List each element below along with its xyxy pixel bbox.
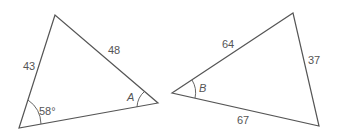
triangle-left: 43 48 58° A — [19, 15, 158, 128]
angle-A-arc — [137, 91, 145, 107]
side-48-label: 48 — [108, 44, 120, 56]
triangle-right: 64 37 67 B — [172, 13, 320, 126]
side-64-label: 64 — [222, 38, 234, 50]
side-67-label: 67 — [237, 114, 249, 126]
angle-B-label: B — [199, 82, 206, 94]
angle-58-label: 58° — [39, 105, 56, 117]
triangle-right-outline — [172, 13, 319, 126]
angle-A-label: A — [126, 91, 134, 103]
side-43-label: 43 — [23, 60, 35, 72]
angle-B-arc — [192, 80, 196, 98]
side-37-label: 37 — [308, 54, 320, 66]
diagram-canvas: 43 48 58° A 64 37 67 B — [0, 0, 338, 138]
